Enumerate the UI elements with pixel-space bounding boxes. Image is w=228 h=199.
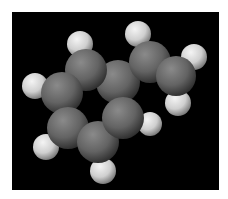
carbon-atom	[41, 72, 83, 114]
carbon-atom	[156, 56, 196, 96]
molecule-model	[0, 0, 228, 199]
atoms-group	[22, 21, 207, 184]
carbon-atom	[102, 97, 144, 139]
